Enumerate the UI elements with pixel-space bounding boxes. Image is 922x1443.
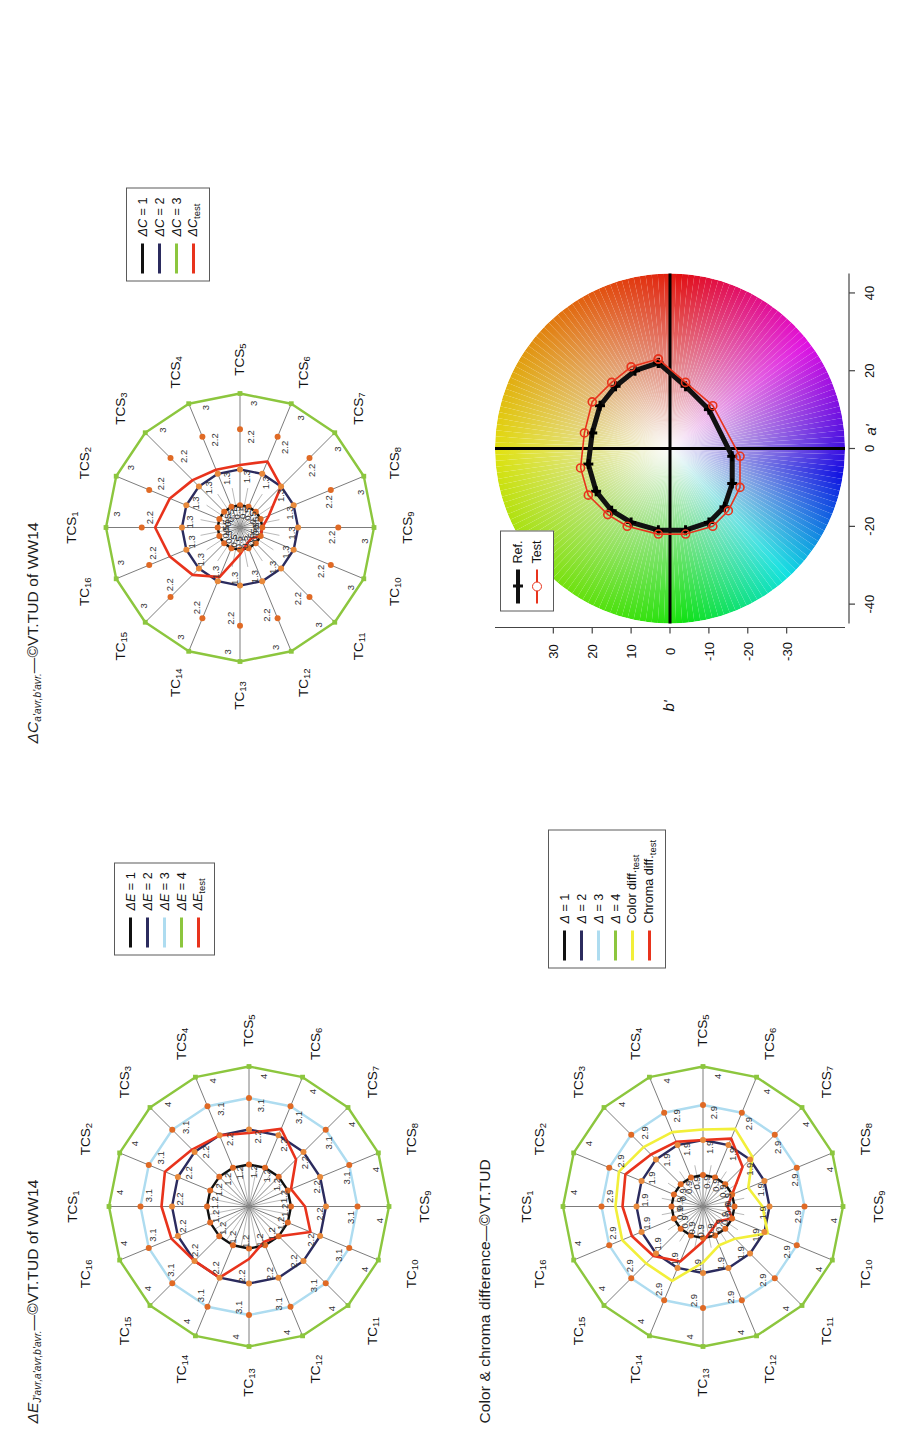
radar-ring-value: 1.2 — [278, 1203, 289, 1216]
legend-line-swatch — [158, 243, 161, 273]
radar-axis-label-tc15: TC15 — [570, 1316, 587, 1345]
radar-ring-value: 1.2 — [260, 1169, 271, 1182]
radar-ring-value: 2.9 — [757, 1273, 768, 1286]
radar-ring-value: 2.2 — [189, 1243, 200, 1256]
ab-legend-item: Test — [527, 540, 546, 603]
radar-ring-value: 4 — [207, 1078, 218, 1083]
radar-ring-value: 1.3 — [240, 470, 251, 483]
radar-ring-value: 1.2 — [227, 1230, 238, 1243]
radar-ring-value: 3 — [332, 446, 343, 451]
radar-ring-value: 1.9 — [744, 1162, 755, 1175]
delta-c-radar-chart: TCS1TCS2TCS3TCS4TCS5TCS6TCS7TCS8TCS9TC10… — [54, 341, 426, 713]
radar-axis-label-tcs3: TCS3 — [570, 1065, 587, 1097]
radar-ring-value: 3.1 — [154, 1151, 165, 1164]
radar-ring-value: 3 — [125, 464, 136, 469]
ab-legend-marker — [513, 569, 523, 603]
radar-ring-value: 3.1 — [143, 1188, 154, 1201]
legend-label: ΔC = 1 — [136, 197, 150, 236]
radar-ring-value: 3 — [115, 559, 126, 564]
radar-ring-value: 4 — [306, 1088, 317, 1093]
radar-ring-value: 4 — [780, 1305, 791, 1310]
radar-ring-value: 1.9 — [757, 1206, 768, 1219]
ab-y-tick: 10 — [624, 644, 639, 658]
radar-ring-value: 4 — [326, 1305, 337, 1310]
radar-ring-value: 1.9 — [645, 1171, 656, 1184]
radar-axis-label-tc16: TC16 — [78, 1259, 95, 1288]
radar-ring-value: 0.9 — [704, 1223, 715, 1236]
delta-c-legend-item: ΔC = 2 — [151, 197, 168, 273]
radar-ring-value: 2.2 — [177, 449, 188, 462]
radar-ring-value: 4 — [800, 1121, 811, 1126]
ab-y-tick: 30 — [546, 644, 561, 658]
radar-axis-label-tc14: TC14 — [167, 668, 184, 697]
color-chroma-legend-item: Δ = 2 — [573, 839, 590, 960]
radar-ring-value: 3 — [221, 649, 232, 654]
radar-ring-value: 4 — [129, 1140, 140, 1145]
radar-ring-value: 2.2 — [260, 608, 271, 621]
legend-label: Δ = 1 — [558, 893, 572, 923]
radar-axis-label-tcs2: TCS2 — [76, 447, 93, 479]
color-chroma-legend-item: Δ = 3 — [590, 839, 607, 960]
radar-ring-value: 3.1 — [233, 1300, 244, 1313]
radar-ring-value: 1.2 — [253, 1233, 264, 1246]
radar-ring-value: 2.2 — [313, 1207, 324, 1220]
ab-legend: Ref.Test — [500, 530, 554, 611]
ab-y-tick: -30 — [779, 642, 794, 661]
radar-ring-value: 4 — [229, 1334, 240, 1339]
radar-ring-value: 1.9 — [681, 1142, 692, 1155]
radar-ring-value: 2.2 — [315, 564, 326, 577]
radar-axis-label-tcs6: TCS6 — [296, 356, 313, 388]
radar-ring-value: 2.9 — [624, 1259, 635, 1272]
radar-ring-value: 1.2 — [234, 1166, 245, 1179]
radar-ring-value: 4 — [258, 1073, 269, 1078]
radar-ring-value: 1.2 — [247, 1165, 258, 1178]
radar-ring-value: 3.1 — [341, 1171, 352, 1184]
radar-ring-value: 1.3 — [249, 569, 260, 582]
legend-line-swatch — [563, 930, 566, 960]
radar-ring-value: 2.2 — [306, 463, 317, 476]
ab-y-axis-label: b' — [660, 700, 677, 711]
radar-axis-label-tc15: TC15 — [113, 632, 130, 661]
legend-line-swatch — [146, 917, 149, 947]
radar-ring-value: 2.9 — [638, 1126, 649, 1139]
legend-line-swatch — [580, 930, 583, 960]
radar-ring-value: 4 — [661, 1078, 672, 1083]
color-chroma-radar-chart: TCS1TCS2TCS3TCS4TCS5TCS6TCS7TCS8TCS9TC10… — [508, 1011, 898, 1401]
radar-ring-value: 1.3 — [202, 481, 213, 494]
radar-ring-value: 3.1 — [254, 1098, 265, 1111]
radar-ring-value: 3 — [199, 404, 210, 409]
radar-axis-label-tc12: TC12 — [308, 1354, 325, 1383]
radar-ring-value: 2.2 — [147, 546, 158, 559]
ab-y-tick: -20 — [740, 642, 755, 661]
radar-axis-label-tc11: TC11 — [350, 632, 367, 660]
legend-line-swatch — [180, 917, 183, 947]
radar-ring-value: 4 — [635, 1318, 646, 1323]
radar-axis-label-tcs9: TCS9 — [417, 1190, 434, 1222]
radar-ring-value: 2.9 — [708, 1105, 719, 1118]
radar-axis-label-tc11: TC11 — [365, 1317, 382, 1345]
delta-c-title-tail: —©VT.TUD of WW14 — [24, 522, 41, 673]
radar-ring-value: 3.1 — [272, 1297, 283, 1310]
color-chroma-legend-item: Chroma diff.test — [641, 839, 658, 960]
ab-legend-item: Ref. — [508, 540, 527, 603]
radar-ring-value: 1.9 — [638, 1193, 649, 1206]
ab-x-axis-label: a' — [862, 424, 879, 435]
legend-line-swatch — [597, 930, 600, 960]
panel-delta-c: ΔCa'avr,b'avr.—©VT.TUD of WW14 TCS1TCS2T… — [18, 103, 448, 743]
radar-ring-value: 2.2 — [322, 495, 333, 508]
radar-axis-label-tcs9: TCS9 — [871, 1190, 888, 1222]
radar-ring-value: 3 — [295, 415, 306, 420]
radar-ring-value: 1.3 — [190, 496, 201, 509]
radar-ring-value: 4 — [595, 1285, 606, 1290]
radar-ring-value: 3 — [174, 634, 185, 639]
legend-label: Δ = 4 — [609, 893, 623, 923]
radar-ring-value: 4 — [374, 1217, 385, 1222]
radar-axis-label-tcs3: TCS3 — [113, 392, 130, 424]
radar-axis-label-tcs7: TCS7 — [350, 392, 367, 424]
radar-ring-value: 2.2 — [210, 1261, 221, 1274]
legend-label: ΔC = 3 — [170, 197, 184, 236]
radar-axis-label-tcs4: TCS4 — [627, 1027, 644, 1059]
radar-axis-label-tcs1: TCS1 — [64, 511, 81, 543]
radar-axis-label-tcs1: TCS1 — [519, 1190, 536, 1222]
legend-line-swatch — [648, 930, 651, 960]
